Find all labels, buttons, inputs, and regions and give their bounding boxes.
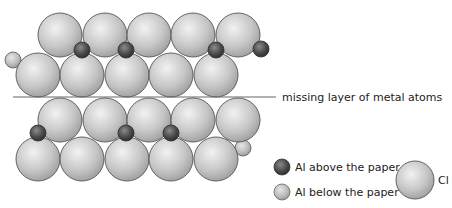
cl-atom <box>16 53 60 97</box>
aluminium-chloride-diagram: missing layer of metal atoms Al above th… <box>0 0 452 208</box>
legend-al-below-icon <box>274 184 290 200</box>
cl-atom <box>194 137 238 181</box>
legend-al-above-icon <box>274 159 290 175</box>
al-above-atom <box>74 42 90 58</box>
cl-back-row <box>38 13 260 57</box>
cl-atom <box>194 53 238 97</box>
legend: Al above the paper Al below the paper Cl <box>274 159 449 200</box>
cl-atom <box>105 53 149 97</box>
bottom-layer <box>16 98 260 181</box>
al-above-atom <box>253 41 269 57</box>
al-above-atom <box>118 125 134 141</box>
cl-atom <box>16 137 60 181</box>
cl-atom <box>149 53 193 97</box>
missing-layer-label: missing layer of metal atoms <box>282 91 443 104</box>
cl-back-row <box>38 98 260 142</box>
cl-front-row <box>16 137 238 181</box>
cl-atom <box>105 137 149 181</box>
legend-al-below-label: Al below the paper <box>295 186 399 199</box>
cl-front-row <box>16 53 238 97</box>
legend-cl-icon <box>396 161 434 199</box>
cl-atom <box>149 137 193 181</box>
cl-atom <box>216 98 260 142</box>
top-layer <box>5 13 269 97</box>
al-above-atom <box>163 125 179 141</box>
al-above-atom <box>30 125 46 141</box>
al-above-atom <box>118 42 134 58</box>
al-above-atom <box>208 42 224 58</box>
cl-atom <box>60 53 104 97</box>
legend-al-above-label: Al above the paper <box>295 161 400 174</box>
legend-cl-label: Cl <box>438 174 449 187</box>
cl-atom <box>60 137 104 181</box>
